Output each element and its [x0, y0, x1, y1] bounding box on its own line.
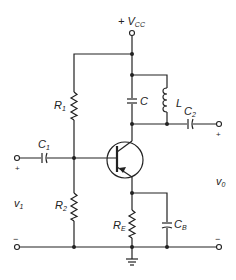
input-minus-terminal — [15, 245, 20, 250]
c-label: C — [140, 95, 148, 107]
cb-capacitor — [161, 222, 173, 228]
cb-branch-wire — [132, 193, 167, 247]
vcc-label: + VCC — [118, 15, 146, 28]
in-minus-label: − — [13, 234, 18, 244]
r1-label: R1 — [54, 99, 66, 112]
junction-dot — [130, 73, 134, 77]
output-plus-terminal — [217, 122, 222, 127]
c1-capacitor — [41, 152, 47, 164]
cb-label: CB — [174, 218, 187, 231]
c1-label: C1 — [38, 138, 50, 151]
junction-dot — [72, 245, 76, 249]
out-plus-label: + — [216, 130, 221, 139]
v1-label: v1 — [14, 197, 24, 210]
junction-dot — [130, 191, 134, 195]
re-label: RE — [113, 219, 126, 232]
in-plus-label: + — [15, 164, 20, 173]
output-minus-terminal — [217, 245, 222, 250]
junction-dot — [130, 52, 134, 56]
l-inductor — [162, 88, 172, 112]
r2-label: R2 — [55, 199, 67, 212]
re-resistor — [128, 210, 136, 238]
ground-icon — [126, 247, 138, 265]
c-capacitor — [126, 98, 138, 104]
junction-dot — [130, 122, 134, 126]
junction-dot — [165, 245, 169, 249]
l-label: L — [176, 97, 182, 109]
c2-capacitor — [187, 118, 193, 130]
c2-label: C2 — [184, 105, 196, 118]
input-plus-terminal — [15, 156, 20, 161]
out-minus-label: − — [215, 234, 220, 244]
r2-resistor — [70, 158, 78, 247]
junction-dot — [165, 122, 169, 126]
circuit-diagram: + VCC R1 C L C2 + + C1 — [0, 0, 236, 280]
v0-label: v0 — [216, 175, 226, 188]
